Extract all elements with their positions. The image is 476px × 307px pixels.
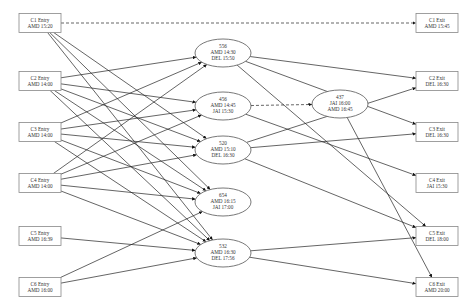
edge-c3e-to-f520 <box>61 134 196 147</box>
edge-c2e-to-f556 <box>61 57 196 78</box>
node-label-line2: AMD 16:15 <box>210 198 236 204</box>
node-label-line3: JAI 17:00 <box>213 204 234 210</box>
node-label-line3: JAI 15:30 <box>213 108 234 114</box>
edge-c6e-to-f532 <box>61 258 197 283</box>
node-label-line1: 437 <box>336 94 344 100</box>
entry-node-c1e: C1 EntryAMD 15:20 <box>19 14 61 33</box>
edge-f532-to-c6x <box>250 257 416 283</box>
edge-c1e-to-f532 <box>48 33 213 240</box>
exit-node-c4x: C4 ExitJAI 15:30 <box>416 174 458 193</box>
edge-c4e-to-f520 <box>61 155 197 179</box>
node-label-line1: 556 <box>219 43 227 49</box>
node-label-line3: DEL 16:30 <box>211 152 234 158</box>
node-label-line2: JAI 15:30 <box>427 183 448 189</box>
node-label-line2: AMD 14:00 <box>27 183 53 189</box>
entry-node-c6e: C6 EntryAMD 16:00 <box>19 278 61 297</box>
node-label-line2: AMD 16:39 <box>27 236 53 242</box>
exit-node-c3x: C3 ExitDEL 16:30 <box>416 123 458 142</box>
node-label-line2: DEL 16:30 <box>425 132 448 138</box>
edge-c5e-to-f532 <box>61 238 195 250</box>
node-label-line3: DEL 15:50 <box>211 55 234 61</box>
flight-node-f532: 532AMD 16:30DEL 17:56 <box>195 239 251 267</box>
node-label-line2: DEL 16:30 <box>425 81 448 87</box>
exit-node-c1x: C1 ExitAMD 15:45 <box>416 14 458 33</box>
node-label-line1: 532 <box>219 243 227 249</box>
flight-node-f520: 520AMD 15:10DEL 16:30 <box>195 136 251 164</box>
node-label-line2: AMD 16:30 <box>210 249 236 255</box>
edge-c6e-to-f654 <box>60 212 202 278</box>
entry-node-c2e: C2 EntryAMD 14:00 <box>19 72 61 91</box>
node-label-line2: AMD 14:00 <box>27 132 53 138</box>
nodes-layer: C1 EntryAMD 15:20C2 EntryAMD 14:00C3 Ent… <box>19 14 458 297</box>
node-label-line2: AMD 15:10 <box>210 146 236 152</box>
entry-node-c5e: C5 EntryAMD 16:39 <box>19 227 61 246</box>
node-label-line1: 520 <box>219 140 227 146</box>
node-label-line1: 654 <box>219 192 227 198</box>
exit-node-c2x: C2 ExitDEL 16:30 <box>416 72 458 91</box>
node-label-line2: DEL 18:00 <box>425 236 448 242</box>
flight-node-f437: 437JAI 16:00AMD 16:45 <box>312 90 368 118</box>
edge-f556-to-c5x <box>237 65 426 226</box>
node-label-line2: AMD 20:00 <box>424 287 450 293</box>
exit-node-c5x: C5 ExitDEL 18:00 <box>416 227 458 246</box>
flight-node-f654: 654AMD 16:15JAI 17:00 <box>195 188 251 216</box>
node-label-line3: AMD 16:45 <box>327 106 353 112</box>
entry-node-c4e: C4 EntryAMD 14:00 <box>19 174 61 193</box>
flight-node-f556: 556AMD 14:30DEL 15:50 <box>195 39 251 67</box>
node-label-line2: AMD 14:30 <box>210 49 236 55</box>
entry-node-c3e: C3 EntryAMD 14:00 <box>19 123 61 142</box>
exit-node-c6x: C6 ExitAMD 20:00 <box>416 278 458 297</box>
edge-c4e-to-f654 <box>61 185 196 199</box>
edge-f456-to-c4x <box>246 114 416 175</box>
edge-f532-to-c5x <box>251 238 416 251</box>
node-label-line2: AMD 15:45 <box>424 23 450 29</box>
node-label-line2: AMD 14:45 <box>210 102 236 108</box>
node-label-line2: AMD 15:20 <box>27 23 53 29</box>
edge-f556-to-c2x <box>250 57 416 79</box>
node-label-line2: JAI 16:00 <box>330 100 351 106</box>
edge-f456-to-f437 <box>251 104 312 105</box>
edge-f520-to-c5x <box>245 159 416 228</box>
edge-c3e-to-f556 <box>61 62 202 123</box>
flight-node-f456: 456AMD 14:45JAI 15:30 <box>195 92 251 120</box>
node-label-line2: AMD 14:00 <box>27 81 53 87</box>
edge-c4e-to-f456 <box>61 115 202 174</box>
node-label-line1: 456 <box>219 96 227 102</box>
node-label-line2: AMD 16:00 <box>27 287 53 293</box>
flow-diagram: C1 EntryAMD 15:20C2 EntryAMD 14:00C3 Ent… <box>0 0 476 307</box>
edge-c2e-to-f520 <box>61 89 201 142</box>
node-label-line3: DEL 17:56 <box>211 255 234 261</box>
